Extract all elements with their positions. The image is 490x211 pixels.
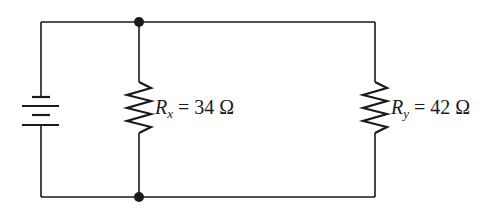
- ry-value: 42 Ω: [430, 96, 470, 118]
- resistor-rx-icon: [127, 82, 151, 133]
- rx-equals: =: [178, 96, 189, 118]
- rx-symbol: R: [155, 96, 167, 118]
- top-junction-dot: [134, 17, 144, 27]
- ry-subscript: y: [403, 106, 409, 121]
- battery-icon: [22, 97, 59, 125]
- bottom-junction-dot: [134, 192, 144, 202]
- rx-subscript: x: [167, 106, 173, 121]
- ry-symbol: R: [391, 96, 403, 118]
- ry-label: Ry = 42 Ω: [391, 96, 470, 122]
- resistor-ry-icon: [363, 82, 387, 133]
- ry-equals: =: [414, 96, 425, 118]
- rx-value: 34 Ω: [194, 96, 234, 118]
- rx-label: Rx = 34 Ω: [155, 96, 234, 122]
